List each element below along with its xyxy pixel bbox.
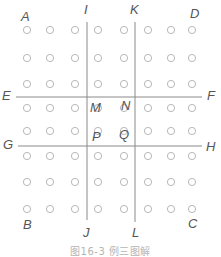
grid-circle — [144, 205, 151, 212]
grid-circle — [188, 26, 195, 33]
grid-circle — [46, 152, 53, 159]
grid-circle — [144, 152, 151, 159]
point-label-c: C — [188, 217, 197, 230]
grid-circle — [167, 127, 174, 134]
grid-circle — [120, 178, 127, 185]
grid-circle — [167, 26, 174, 33]
point-label-h: H — [206, 140, 215, 153]
grid-circle — [46, 127, 53, 134]
point-label-g: G — [3, 138, 13, 151]
figure-caption: 图16-3 例三图解 — [0, 243, 221, 257]
grid-circle — [144, 104, 151, 111]
point-label-a: A — [21, 10, 30, 23]
grid-circle — [188, 104, 195, 111]
grid-circle — [188, 152, 195, 159]
grid-circle — [46, 54, 53, 61]
grid-circle — [23, 54, 30, 61]
grid-circle — [23, 127, 30, 134]
grid-circle — [120, 80, 127, 87]
grid-circle — [188, 80, 195, 87]
point-label-b: B — [23, 218, 32, 231]
grid-circle — [144, 54, 151, 61]
grid-circle — [71, 127, 78, 134]
grid-circle — [23, 205, 30, 212]
point-label-q: Q — [119, 128, 129, 141]
grid-circle — [188, 54, 195, 61]
grid-circle — [23, 80, 30, 87]
grid-circle — [46, 205, 53, 212]
point-label-d: D — [190, 7, 199, 20]
point-label-n: N — [121, 99, 130, 112]
point-label-i: I — [84, 3, 88, 16]
grid-circle — [94, 54, 101, 61]
grid-circle — [94, 26, 101, 33]
grid-circle — [23, 178, 30, 185]
grid-circle — [120, 54, 127, 61]
grid-circle — [167, 80, 174, 87]
grid-circle — [71, 80, 78, 87]
grid-circle — [144, 127, 151, 134]
grid-circle — [71, 26, 78, 33]
grid-circle — [46, 80, 53, 87]
grid-circle — [23, 26, 30, 33]
grid-circle — [71, 54, 78, 61]
grid-circle — [167, 104, 174, 111]
grid-circle — [46, 26, 53, 33]
grid-circle — [46, 104, 53, 111]
point-label-f: F — [207, 89, 215, 102]
grid-circle — [120, 152, 127, 159]
grid-circle — [94, 178, 101, 185]
grid-circle — [120, 205, 127, 212]
point-label-k: K — [130, 3, 139, 16]
point-label-l: L — [132, 226, 139, 239]
grid-circle — [94, 205, 101, 212]
grid-circle — [71, 205, 78, 212]
grid-circle — [46, 178, 53, 185]
point-label-e: E — [2, 89, 11, 102]
grid-circle — [188, 205, 195, 212]
grid-circle — [144, 26, 151, 33]
point-label-m: M — [90, 101, 101, 114]
grid-circle — [94, 80, 101, 87]
grid-circle — [71, 152, 78, 159]
grid-circle — [144, 80, 151, 87]
grid-circle — [144, 178, 151, 185]
grid-circle — [71, 178, 78, 185]
grid-circle — [23, 152, 30, 159]
grid-circle — [167, 205, 174, 212]
grid-circle — [23, 104, 30, 111]
grid-circle — [94, 152, 101, 159]
grid-diagram: AIKDEFMNGHPQBCJL 图16-3 例三图解 — [0, 0, 221, 257]
grid-circle — [167, 178, 174, 185]
point-label-p: P — [92, 130, 101, 143]
grid-circle — [188, 127, 195, 134]
grid-circle — [71, 104, 78, 111]
grid-circle — [167, 152, 174, 159]
grid-circle — [188, 178, 195, 185]
grid-circle — [120, 26, 127, 33]
grid-circle — [167, 54, 174, 61]
point-label-j: J — [83, 226, 90, 239]
